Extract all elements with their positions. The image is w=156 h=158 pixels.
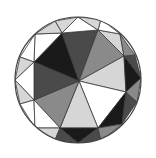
diagram-canvas — [0, 0, 156, 158]
faceted-circle-diagram — [0, 0, 156, 158]
facet-group — [15, 17, 141, 143]
